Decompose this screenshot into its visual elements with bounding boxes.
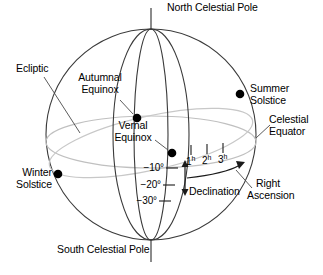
- label-autumnal-equinox-line1: Autumnal: [68, 72, 132, 84]
- autumnal-equinox-leader-line: [120, 100, 133, 114]
- celestial-sphere-diagram: North Celestial Pole South Celestial Pol…: [0, 0, 323, 275]
- label-summer-solstice-line1: Summer: [250, 83, 289, 95]
- vernal-equinox-marker: [168, 149, 177, 158]
- ra-tick-unit-2: h: [207, 154, 211, 161]
- ra-tick-label-2h: 2h: [202, 155, 211, 167]
- declination-tick-label--30: −30°: [119, 195, 157, 207]
- ra-tick-unit-1: h: [191, 155, 195, 162]
- label-right-ascension-line1: Right: [256, 178, 280, 190]
- label-north-celestial-pole: North Celestial Pole: [167, 2, 258, 14]
- label-summer-solstice-line2: Solstice: [250, 95, 286, 107]
- label-right-ascension-line2: Ascension: [247, 190, 295, 202]
- declination-tick-label--20: −20°: [123, 179, 161, 191]
- label-winter-solstice-line1: Winter: [0, 167, 52, 179]
- label-declination: Declination: [189, 186, 240, 198]
- right-ascension-arrow-head: [236, 161, 245, 169]
- declination-tick-label--10: −10°: [126, 162, 164, 174]
- sphere-graphic: [0, 0, 323, 275]
- celestial-equator-leader-line: [256, 125, 270, 138]
- ra-tick-label-1h: 1h: [186, 156, 195, 168]
- label-celestial-equator-line2: Equator: [269, 126, 305, 138]
- label-autumnal-equinox-line2: Equinox: [68, 84, 132, 96]
- label-vernal-equinox-line2: Equinox: [105, 132, 161, 144]
- summer-solstice-marker: [236, 90, 245, 99]
- label-ecliptic: Ecliptic: [16, 63, 48, 75]
- label-celestial-equator-line1: Celestial: [269, 114, 308, 126]
- label-south-celestial-pole: South Celestial Pole: [57, 244, 150, 256]
- ra-tick-unit-3: h: [223, 153, 227, 160]
- label-vernal-equinox-line1: Vernal: [105, 120, 161, 132]
- winter-solstice-marker: [54, 170, 63, 179]
- label-winter-solstice-line2: Solstice: [0, 179, 52, 191]
- ra-tick-label-3h: 3h: [218, 154, 227, 166]
